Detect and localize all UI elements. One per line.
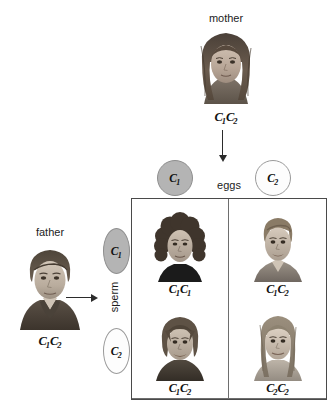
sperm-gamete-c2-label: C2 — [111, 345, 123, 357]
punnett-cell-label-c1c1: C1C1 — [169, 283, 192, 297]
father-genotype: C1C2 — [8, 334, 92, 349]
mother-to-eggs-arrow — [222, 130, 223, 156]
egg-gamete-c2: C2 — [255, 160, 291, 196]
punnett-cell-c2c2: C2C2 — [229, 299, 326, 399]
father-to-sperm-arrow — [66, 297, 92, 298]
offspring-portrait-c1c1 — [144, 210, 216, 282]
egg-gamete-c1: C1 — [157, 160, 193, 196]
punnett-square-diagram: mother — [0, 0, 336, 408]
mother-face-image — [186, 26, 266, 108]
father-sub-1: 1 — [46, 340, 50, 350]
shaggy-haired-boy-face-image — [144, 309, 216, 381]
eggs-label: eggs — [204, 179, 254, 191]
punnett-grid: C1C1 — [131, 198, 327, 400]
egg-gamete-c1-label: C1 — [169, 172, 181, 184]
short-haired-boy-face-image — [242, 210, 314, 282]
father-portrait — [10, 240, 90, 332]
mother-portrait — [186, 26, 266, 108]
father-label: father — [8, 226, 92, 238]
sperm-gamete-c1: C1 — [103, 228, 130, 274]
sperm-gamete-c1-label: C1 — [111, 245, 123, 257]
mother-label: mother — [186, 12, 266, 24]
punnett-cell-c1c1: C1C1 — [132, 199, 229, 299]
mother-sub-1: 1 — [222, 116, 226, 126]
punnett-cell-label-c1c2-bottom: C1C2 — [169, 382, 192, 396]
offspring-portrait-c1c2-bottom — [144, 309, 216, 381]
mother-genotype: C1C2 — [186, 110, 266, 125]
father-face-image — [10, 240, 90, 332]
egg-gamete-c2-label: C2 — [267, 172, 279, 184]
father-sub-2: 2 — [57, 340, 61, 350]
punnett-cell-c1c2-bottom: C1C2 — [132, 299, 229, 399]
sperm-label: sperm — [108, 277, 120, 317]
mother-sub-2: 2 — [233, 116, 237, 126]
long-haired-girl-face-image — [242, 309, 314, 381]
offspring-portrait-c2c2 — [242, 309, 314, 381]
curly-haired-child-face-image — [144, 210, 216, 282]
punnett-cell-c1c2-top: C1C2 — [229, 199, 326, 299]
punnett-cell-label-c1c2-top: C1C2 — [266, 283, 289, 297]
offspring-portrait-c1c2-top — [242, 210, 314, 282]
punnett-cell-label-c2c2: C2C2 — [266, 382, 289, 396]
sperm-gamete-c2: C2 — [103, 328, 130, 374]
